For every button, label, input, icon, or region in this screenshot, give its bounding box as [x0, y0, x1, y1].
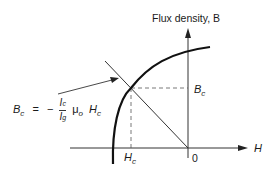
- bc-sub: c: [201, 89, 205, 98]
- b-axis-title: Flux density, B: [152, 13, 220, 24]
- eq-rhs-var: H: [89, 103, 97, 115]
- h-axis-arrowhead-icon: [238, 145, 248, 151]
- bh-diagram: [0, 0, 278, 175]
- hc-sub: c: [132, 157, 136, 166]
- eq-fraction: Ic Ig: [59, 97, 66, 124]
- hc-label: Hc: [124, 152, 136, 163]
- eq-rhs-sub: c: [97, 109, 101, 118]
- eq-equals: =: [32, 103, 38, 115]
- pointer-arrow-line: [58, 80, 112, 94]
- eq-lhs-sub: c: [20, 109, 24, 118]
- eq-denominator: Ig: [59, 111, 66, 124]
- h-axis-label: H: [254, 143, 262, 154]
- hc-var: H: [124, 151, 132, 163]
- bc-label: Bc: [194, 84, 205, 95]
- load-line: [105, 61, 188, 148]
- eq-minus: −: [47, 103, 53, 115]
- eq-mu-sub: o: [79, 109, 83, 118]
- eq-numerator: Ic: [59, 97, 66, 111]
- load-line-equation: Bc = − Ic Ig μo Hc: [13, 97, 101, 124]
- origin-label: 0: [192, 153, 198, 164]
- demagnetization-curve: [113, 47, 210, 164]
- b-axis-arrowhead-icon: [185, 28, 191, 38]
- eq-mu: μ: [72, 103, 78, 115]
- pointer-arrowhead-icon: [110, 77, 119, 83]
